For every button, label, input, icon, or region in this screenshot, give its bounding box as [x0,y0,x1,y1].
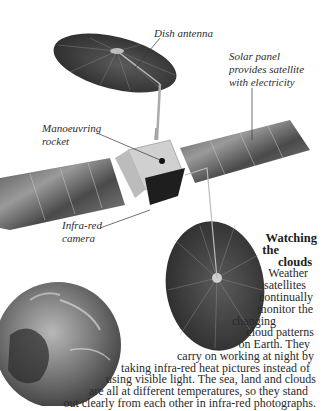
caption-title: the [262,243,279,258]
caption-line: out clearly from each other in infra-red… [63,396,316,411]
